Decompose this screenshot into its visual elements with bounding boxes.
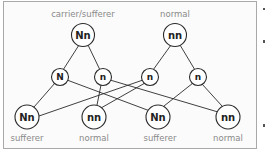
edge-parent2-g3 — [153, 45, 171, 70]
offspring-4-phenotype-label: normal — [213, 133, 243, 143]
edge-g1-o3 — [67, 80, 150, 111]
gamete-node-4: n — [190, 69, 207, 86]
gamete-node-1: N — [52, 69, 69, 86]
gamete-1-allele: N — [56, 72, 64, 82]
offspring-4-genotype: nn — [221, 112, 235, 123]
parent2-node: nn — [164, 24, 187, 47]
parent1-node: Nn — [72, 24, 95, 47]
offspring-node-1: Nn — [15, 105, 39, 129]
edge-parent2-g4 — [180, 45, 195, 70]
edge-g4-o3 — [164, 83, 193, 106]
parent2-phenotype-label: normal — [160, 9, 190, 19]
cropped-mark — [263, 124, 265, 127]
offspring-2-genotype: nn — [87, 112, 101, 123]
gamete-3-allele: n — [147, 72, 153, 82]
gamete-4-allele: n — [195, 72, 201, 82]
offspring-node-2: nn — [82, 105, 106, 129]
cropped-mark — [263, 40, 265, 43]
offspring-1-phenotype-label: sufferer — [11, 133, 44, 143]
edge-g4-o4 — [202, 84, 222, 106]
edge-parent1-g2 — [88, 45, 100, 70]
parent1-phenotype-label: carrier/sufferer — [51, 9, 115, 19]
offspring-1-genotype: Nn — [19, 112, 35, 123]
edge-parent1-g1 — [63, 45, 79, 70]
offspring-3-genotype: Nn — [150, 112, 166, 123]
gamete-node-3: n — [142, 69, 159, 86]
offspring-2-phenotype-label: normal — [79, 133, 109, 143]
gamete-2-allele: n — [100, 72, 106, 82]
offspring-node-4: nn — [216, 105, 240, 129]
cropped-mark — [263, 8, 265, 10]
parent2-genotype: nn — [168, 30, 182, 41]
offspring-3-phenotype-label: sufferer — [144, 133, 177, 143]
offspring-node-3: Nn — [146, 105, 170, 129]
gamete-node-2: n — [95, 69, 112, 86]
inheritance-diagram: carrier/sufferer normal Nn nn N n n n Nn… — [0, 0, 267, 151]
parent1-genotype: Nn — [75, 30, 91, 41]
edge-g1-o1 — [34, 83, 55, 107]
